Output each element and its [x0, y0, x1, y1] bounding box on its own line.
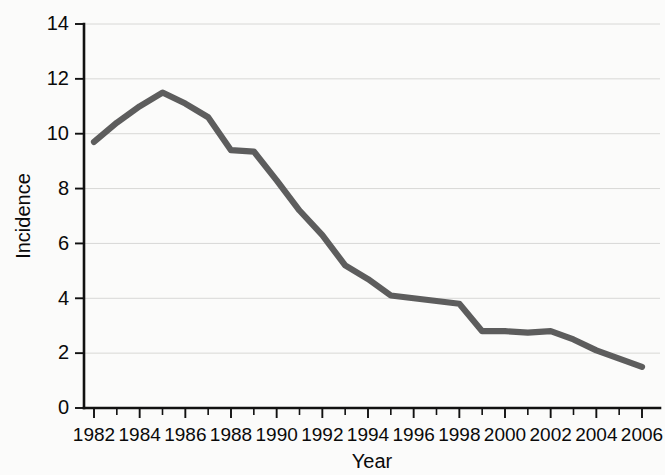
x-tick-label-1994: 1994	[347, 424, 390, 445]
x-tick-label-2000: 2000	[484, 424, 526, 445]
y-tick-label-0: 0	[58, 396, 69, 418]
chart-background	[0, 0, 665, 475]
x-tick-label-2002: 2002	[530, 424, 572, 445]
y-tick-label-4: 4	[58, 287, 69, 309]
x-tick-label-2006: 2006	[621, 424, 663, 445]
y-tick-label-8: 8	[58, 177, 69, 199]
x-tick-label-1986: 1986	[164, 424, 206, 445]
y-tick-label-10: 10	[47, 122, 69, 144]
chart-canvas: 1982198419861988199019921994199619982000…	[0, 0, 665, 475]
x-tick-label-1992: 1992	[301, 424, 343, 445]
x-tick-label-1984: 1984	[119, 424, 162, 445]
y-axis-title: Incidence	[12, 173, 34, 259]
x-tick-label-1988: 1988	[210, 424, 252, 445]
x-tick-label-1982: 1982	[73, 424, 115, 445]
line-chart: 1982198419861988199019921994199619982000…	[0, 0, 665, 475]
x-tick-label-2004: 2004	[575, 424, 618, 445]
y-tick-label-14: 14	[47, 12, 69, 34]
y-tick-label-2: 2	[58, 341, 69, 363]
y-tick-label-12: 12	[47, 67, 69, 89]
y-tick-label-6: 6	[58, 232, 69, 254]
x-tick-label-1998: 1998	[438, 424, 480, 445]
x-tick-label-1990: 1990	[256, 424, 298, 445]
x-tick-label-1996: 1996	[393, 424, 435, 445]
x-axis-title: Year	[352, 450, 393, 472]
